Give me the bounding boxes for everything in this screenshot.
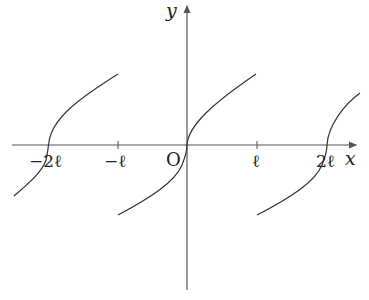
origin-label: O	[166, 149, 181, 170]
tick-label-l: ℓ	[252, 151, 260, 171]
curve-segment-left	[14, 74, 118, 196]
y-axis-label: y	[165, 0, 177, 21]
tick-label-2l: 2ℓ	[316, 151, 335, 171]
tick-label-neg2l: −2ℓ	[29, 151, 62, 171]
tick-label-negl: −ℓ	[104, 151, 126, 171]
graph-canvas: y x O −2ℓ −ℓ ℓ 2ℓ	[0, 0, 369, 300]
x-axis-label: x	[345, 147, 356, 169]
